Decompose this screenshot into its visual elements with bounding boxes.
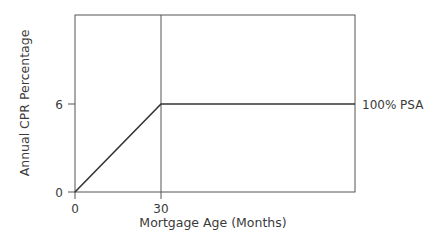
x-tick-label-30: 30 <box>153 202 168 216</box>
y-tick-label-6: 6 <box>55 98 63 112</box>
x-tick-label-0: 0 <box>71 202 79 216</box>
chart: 6 0 0 30 Mortgage Age (Months) Annual CP… <box>0 0 435 243</box>
psa-series-line <box>75 104 355 192</box>
series-label-100-psa: 100% PSA <box>362 98 424 112</box>
y-axis-title: Annual CPR Percentage <box>17 29 32 176</box>
y-tick-label-0: 0 <box>55 186 63 200</box>
x-axis-title: Mortgage Age (Months) <box>139 215 286 230</box>
